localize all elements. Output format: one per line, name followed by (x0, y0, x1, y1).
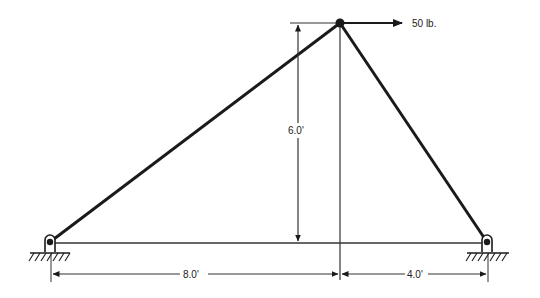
left-pin-support (29, 235, 70, 282)
truss-diagram: 6.0' 50 lb. (0, 0, 540, 298)
right-pin-support (466, 235, 509, 282)
right-span-label: 4.0' (407, 269, 423, 280)
height-label: 6.0' (288, 125, 304, 136)
load-label: 50 lb. (412, 18, 436, 29)
left-span-label: 8.0' (183, 269, 199, 280)
right-member (340, 23, 487, 242)
apex-joint (336, 19, 345, 28)
